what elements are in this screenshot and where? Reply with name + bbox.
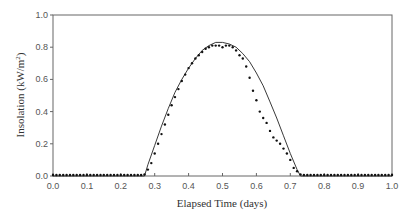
data-point <box>177 88 179 90</box>
x-tick-label: 0.1 <box>81 181 94 191</box>
data-point <box>221 46 223 48</box>
data-point <box>211 44 213 46</box>
data-point <box>357 174 359 176</box>
y-axis-label-end: ) <box>14 52 27 56</box>
data-point <box>201 51 203 53</box>
data-point <box>99 174 101 176</box>
data-point <box>354 174 356 176</box>
data-point <box>126 174 128 176</box>
data-point <box>279 143 281 145</box>
data-point <box>130 174 132 176</box>
data-point <box>289 159 291 161</box>
data-point <box>69 174 71 176</box>
data-point <box>120 174 122 176</box>
data-point <box>377 174 379 176</box>
data-point <box>208 46 210 48</box>
insolation-chart: 0.00.20.40.60.81.0 0.00.10.20.30.40.50.6… <box>0 0 409 223</box>
data-point <box>259 110 261 112</box>
data-point <box>157 143 159 145</box>
data-point <box>160 133 162 135</box>
data-point <box>218 44 220 46</box>
data-point <box>255 99 257 101</box>
data-point <box>204 48 206 50</box>
x-tick-label: 0.7 <box>284 181 297 191</box>
data-point <box>326 174 328 176</box>
data-point <box>242 57 244 59</box>
data-point <box>320 174 322 176</box>
data-point <box>360 174 362 176</box>
data-point <box>391 174 393 176</box>
data-point <box>272 136 274 138</box>
data-point <box>323 174 325 176</box>
data-point <box>96 174 98 176</box>
data-point <box>170 104 172 106</box>
data-point <box>343 174 345 176</box>
data-point <box>340 174 342 176</box>
data-point <box>232 46 234 48</box>
data-point <box>248 77 250 79</box>
data-point <box>181 80 183 82</box>
data-point <box>296 170 298 172</box>
data-point <box>52 174 54 176</box>
data-point <box>113 174 115 176</box>
data-point <box>293 167 295 169</box>
data-point <box>269 130 271 132</box>
data-point <box>59 174 61 176</box>
y-axis-ticks: 0.00.20.40.60.81.0 <box>35 10 53 181</box>
data-point <box>276 139 278 141</box>
data-point <box>116 174 118 176</box>
data-point <box>147 168 149 170</box>
data-point <box>89 174 91 176</box>
data-point <box>154 152 156 154</box>
data-point <box>86 174 88 176</box>
y-axis-label-main: Insolation (kW/m <box>14 59 27 137</box>
data-point <box>306 174 308 176</box>
data-point <box>65 174 67 176</box>
y-tick-label: 1.0 <box>35 10 48 20</box>
y-tick-label: 0.4 <box>35 107 48 117</box>
x-axis-label: Elapsed Time (days) <box>177 197 268 210</box>
x-tick-label: 1.0 <box>386 181 399 191</box>
x-tick-label: 0.4 <box>182 181 195 191</box>
data-point <box>174 96 176 98</box>
data-point <box>62 174 64 176</box>
data-point <box>184 73 186 75</box>
data-point <box>167 114 169 116</box>
y-tick-label: 0.6 <box>35 74 48 84</box>
data-point <box>309 174 311 176</box>
data-point <box>187 67 189 69</box>
data-point <box>330 174 332 176</box>
plot-frame <box>53 15 392 176</box>
data-point <box>215 44 217 46</box>
data-point <box>381 174 383 176</box>
data-point <box>225 44 227 46</box>
data-point <box>245 65 247 67</box>
y-tick-label: 0.2 <box>35 139 48 149</box>
x-tick-label: 0.6 <box>250 181 263 191</box>
data-point <box>106 174 108 176</box>
data-point <box>109 174 111 176</box>
data-point <box>82 174 84 176</box>
y-axis-label: Insolation (kW/m2) <box>14 52 27 137</box>
data-point <box>262 117 264 119</box>
data-point <box>350 174 352 176</box>
data-point <box>79 174 81 176</box>
data-point <box>313 174 315 176</box>
data-point <box>55 174 57 176</box>
data-point <box>191 62 193 64</box>
data-point <box>198 54 200 56</box>
data-point <box>143 173 145 175</box>
measured-dots <box>52 44 393 176</box>
data-point <box>265 122 267 124</box>
data-point <box>103 174 105 176</box>
data-point <box>337 174 339 176</box>
data-point <box>374 174 376 176</box>
x-tick-label: 0.3 <box>148 181 161 191</box>
data-point <box>235 49 237 51</box>
data-point <box>384 174 386 176</box>
data-point <box>137 174 139 176</box>
x-tick-label: 0.9 <box>352 181 365 191</box>
data-point <box>140 174 142 176</box>
data-point <box>282 147 284 149</box>
model-curve <box>53 42 392 176</box>
